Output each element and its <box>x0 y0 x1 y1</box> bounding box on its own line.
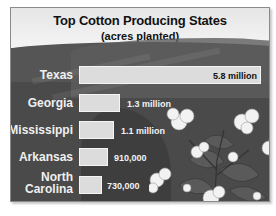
bar-label-mississippi: Mississippi <box>10 124 73 136</box>
bar-label-georgia: Georgia <box>28 97 73 109</box>
bar-label-north-carolina-line2: Carolina <box>25 182 73 196</box>
bar-mississippi <box>79 121 114 139</box>
value-label-mississippi: 1.1 million <box>121 126 165 136</box>
bar-arkansas <box>79 148 108 166</box>
cotton-plant-illustration <box>149 100 270 202</box>
bar-label-arkansas: Arkansas <box>19 151 73 163</box>
value-label-georgia: 1.3 million <box>127 99 171 109</box>
bar-georgia <box>79 94 120 112</box>
bar-label-north-carolina: North Carolina <box>25 171 73 195</box>
chart-frame: Top Cotton Producing States (acres plant… <box>10 7 270 202</box>
value-label-texas: 5.8 million <box>213 71 257 81</box>
bar-label-texas: Texas <box>40 69 73 81</box>
value-label-arkansas: 910,000 <box>114 153 147 163</box>
bar-north-carolina <box>79 176 102 194</box>
chart-title: Top Cotton Producing States <box>11 13 269 28</box>
value-label-north-carolina: 730,000 <box>107 181 140 191</box>
